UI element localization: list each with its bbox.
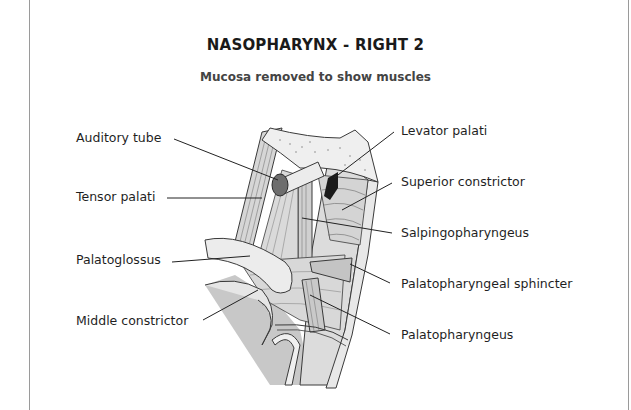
label-middle-constrictor: Middle constrictor — [76, 314, 188, 328]
label-palatoglossus: Palatoglossus — [76, 253, 161, 267]
label-levator-palati: Levator palati — [401, 124, 487, 138]
auditory-tube-opening — [272, 174, 288, 196]
label-salpingopharyngeus: Salpingopharyngeus — [401, 226, 529, 240]
label-palatopharyngeus: Palatopharyngeus — [401, 328, 513, 342]
label-superior-constrictor: Superior constrictor — [401, 175, 525, 189]
label-palatopharyngeal-sphincter: Palatopharyngeal sphincter — [401, 277, 572, 291]
label-tensor-palati: Tensor palati — [76, 190, 156, 204]
nasopharynx-illustration — [0, 0, 631, 410]
label-auditory-tube: Auditory tube — [76, 131, 161, 145]
